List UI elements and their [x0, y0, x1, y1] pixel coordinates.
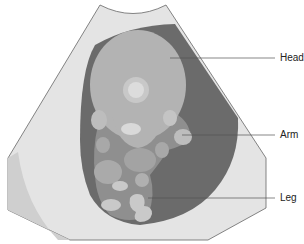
head-label: Head	[280, 53, 304, 63]
arm-left-blob	[91, 110, 107, 130]
ultrasound-diagram	[0, 0, 304, 244]
leg-blob	[112, 181, 128, 191]
jaw-highlight	[121, 123, 141, 135]
torso-blob	[94, 160, 122, 184]
arm-blob	[174, 129, 192, 145]
leg-label: Leg	[280, 193, 297, 203]
limb-blob	[96, 137, 110, 153]
head-center-bright	[128, 82, 144, 98]
leg-blob	[101, 199, 121, 211]
torso-blob	[124, 148, 156, 172]
limb-blob	[155, 142, 169, 158]
arm-label: Arm	[280, 130, 298, 140]
torso-blob	[135, 173, 149, 187]
arm-right-blob	[163, 110, 177, 126]
